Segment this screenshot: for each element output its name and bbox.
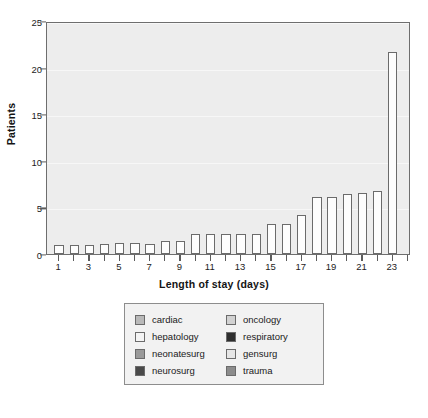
y-tick-label: 10: [22, 156, 42, 167]
bar: [161, 241, 170, 254]
bar: [176, 241, 185, 254]
x-tick-label: 13: [228, 261, 252, 272]
y-tick-label: 20: [22, 63, 42, 74]
bar: [206, 234, 215, 254]
legend: cardiaconcologyhepatologyrespiratoryneon…: [124, 303, 324, 385]
bar: [388, 52, 397, 254]
x-tick-label: 15: [258, 261, 282, 272]
legend-item: respiratory: [226, 328, 313, 345]
legend-label: oncology: [243, 315, 281, 325]
bar: [312, 197, 321, 254]
bar-series: [47, 23, 409, 254]
x-tick-label: 19: [319, 261, 343, 272]
legend-label: hepatology: [152, 332, 198, 342]
plot-inner: [47, 23, 409, 254]
bar: [236, 234, 245, 255]
legend-swatch-icon: [135, 366, 145, 376]
legend-label: trauma: [243, 366, 273, 376]
y-tick-label: 15: [22, 110, 42, 121]
bar: [343, 194, 352, 254]
legend-label: neonatesurg: [152, 349, 205, 359]
legend-swatch-icon: [226, 332, 236, 342]
x-tick-label: 1: [46, 261, 70, 272]
x-tick-label: 17: [289, 261, 313, 272]
x-tick-label: 23: [380, 261, 404, 272]
legend-item: oncology: [226, 311, 313, 328]
bar: [373, 191, 382, 254]
legend-swatch-icon: [226, 349, 236, 359]
y-tick-label: 0: [22, 250, 42, 261]
x-tick-mark: [73, 255, 74, 261]
bar: [115, 243, 124, 254]
bar-chart: Patients 0510152025 1357911131517192123 …: [0, 0, 428, 300]
x-tick-mark: [134, 255, 135, 261]
bar: [100, 244, 109, 254]
legend-swatch-icon: [226, 315, 236, 325]
legend-label: neurosurg: [152, 366, 195, 376]
bar: [191, 234, 200, 254]
legend-label: gensurg: [243, 349, 277, 359]
x-tick-mark: [104, 255, 105, 261]
legend-swatch-icon: [135, 349, 145, 359]
x-tick-mark: [255, 255, 256, 261]
x-tick-label: 11: [198, 261, 222, 272]
x-tick-mark: [286, 255, 287, 261]
legend-item: neonatesurg: [135, 345, 222, 362]
x-tick-mark: [225, 255, 226, 261]
y-axis-title: Patients: [5, 94, 17, 154]
x-tick-mark: [407, 255, 408, 261]
legend-item: gensurg: [226, 345, 313, 362]
legend-swatch-icon: [135, 332, 145, 342]
x-axis-title: Length of stay (days): [0, 278, 428, 290]
x-tick-label: 3: [76, 261, 100, 272]
legend-swatch-icon: [226, 366, 236, 376]
bar: [252, 234, 261, 255]
legend-item: neurosurg: [135, 362, 222, 379]
bar: [70, 245, 79, 254]
x-tick-mark: [164, 255, 165, 261]
legend-swatch-icon: [135, 315, 145, 325]
bar: [85, 245, 94, 254]
bar: [327, 197, 336, 254]
bar: [297, 215, 306, 254]
y-tick-label: 25: [22, 17, 42, 28]
legend-label: respiratory: [243, 332, 288, 342]
x-tick-label: 7: [137, 261, 161, 272]
figure: Patients 0510152025 1357911131517192123 …: [0, 0, 428, 418]
x-tick-mark: [195, 255, 196, 261]
legend-item: hepatology: [135, 328, 222, 345]
bar: [54, 245, 63, 254]
bar: [267, 224, 276, 254]
legend-label: cardiac: [152, 315, 183, 325]
legend-grid: cardiaconcologyhepatologyrespiratoryneon…: [135, 311, 313, 377]
bar: [358, 193, 367, 255]
x-tick-label: 5: [107, 261, 131, 272]
legend-item: cardiac: [135, 311, 222, 328]
x-tick-mark: [346, 255, 347, 261]
y-tick-label: 5: [22, 203, 42, 214]
x-tick-label: 21: [349, 261, 373, 272]
bar: [130, 243, 139, 254]
plot-area: [46, 22, 410, 255]
bar: [282, 224, 291, 254]
x-tick-label: 9: [167, 261, 191, 272]
x-tick-mark: [377, 255, 378, 261]
bar: [221, 234, 230, 254]
x-tick-mark: [316, 255, 317, 261]
bar: [145, 244, 154, 254]
legend-item: trauma: [226, 362, 313, 379]
